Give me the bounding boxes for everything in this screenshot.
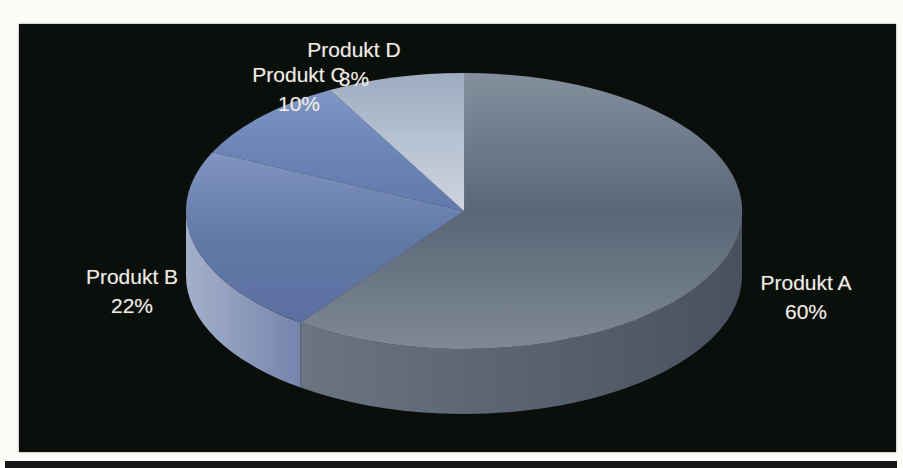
label-produkt-b-name: Produkt B xyxy=(57,262,207,291)
bottom-edge-strip xyxy=(5,461,897,468)
label-produkt-a-pct: 60% xyxy=(731,297,881,326)
label-produkt-b: Produkt B 22% xyxy=(57,262,207,320)
label-produkt-b-pct: 22% xyxy=(57,291,207,320)
label-produkt-c: Produkt C 10% xyxy=(224,60,374,118)
page: { "page": { "background_color": "#fbfbf8… xyxy=(0,0,903,468)
label-produkt-a: Produkt A 60% xyxy=(731,268,881,326)
label-produkt-a-name: Produkt A xyxy=(731,268,881,297)
label-produkt-c-name: Produkt C xyxy=(224,60,374,89)
label-produkt-c-pct: 10% xyxy=(224,89,374,118)
pie-chart-svg xyxy=(0,0,903,468)
